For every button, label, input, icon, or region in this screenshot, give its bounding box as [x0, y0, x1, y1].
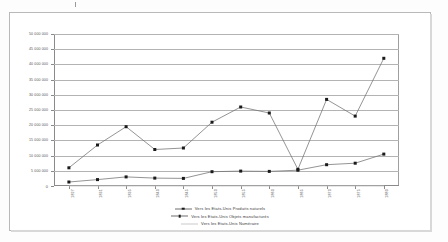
y-tick-label: 25 000 000 — [29, 108, 48, 112]
data-point-marker — [325, 163, 328, 166]
series-line — [69, 58, 384, 169]
data-point-marker — [211, 170, 214, 173]
x-tick-mark — [298, 186, 299, 189]
legend-marker-icon — [181, 221, 198, 226]
x-tick-mark — [69, 186, 70, 189]
series-lines — [54, 34, 399, 186]
chart-frame: 50 000 00045 000 00040 000 00035 000 000… — [9, 12, 431, 231]
legend-item-2[interactable]: Vers les Etats-Unis Objets manufacturés — [171, 214, 269, 219]
data-point-marker — [354, 162, 357, 165]
x-tick-label: 1870 — [328, 189, 332, 198]
y-tick-label: 0 — [46, 184, 48, 189]
x-tick-mark — [126, 186, 127, 189]
legend-label: Vers les Etats-Unis Objets manufacturés — [191, 214, 269, 219]
x-tick-label: 1855 — [242, 189, 246, 198]
y-tick-label: 15 000 000 — [29, 138, 48, 142]
data-point-marker — [239, 170, 242, 173]
data-point-marker — [296, 169, 299, 172]
data-point-marker — [268, 170, 271, 173]
y-tick-label: 20 000 000 — [29, 123, 48, 127]
page-top-mark — [75, 2, 76, 7]
data-point-marker — [268, 112, 271, 115]
x-tick-label: 1835 — [128, 189, 132, 198]
data-point-marker — [67, 181, 70, 184]
x-tick-label: 1845 — [185, 189, 189, 198]
y-tick-label: 45 000 000 — [29, 47, 48, 51]
chart-page: 50 000 00045 000 00040 000 00035 000 000… — [0, 0, 448, 242]
y-tick-label: 50 000 000 — [29, 32, 48, 36]
legend-marker-icon — [171, 214, 188, 219]
y-tick-label: 40 000 000 — [29, 62, 48, 66]
data-point-marker — [382, 153, 385, 156]
legend-item-1[interactable]: Vers les Etats-Unis Produits naturels — [175, 206, 265, 211]
data-point-marker — [211, 121, 214, 124]
data-point-marker — [182, 147, 185, 150]
data-point-marker — [125, 125, 128, 128]
data-point-marker — [239, 106, 242, 109]
x-tick-label: 1860 — [271, 189, 275, 198]
x-tick-label: 1831 — [99, 189, 103, 198]
data-point-marker — [125, 175, 128, 178]
y-tick-mark — [51, 186, 54, 187]
data-point-marker — [354, 115, 357, 118]
x-tick-mark — [212, 186, 213, 189]
x-tick-label: 1880 — [385, 189, 389, 198]
data-point-marker — [67, 166, 70, 169]
y-tick-label: 10 000 000 — [29, 154, 48, 158]
series-line — [69, 154, 384, 182]
series-2 — [67, 153, 385, 184]
legend-marker-icon — [175, 206, 192, 211]
y-tick-label: 30 000 000 — [29, 93, 48, 97]
data-point-marker — [325, 98, 328, 101]
x-tick-label: 1865 — [300, 189, 304, 198]
x-tick-label: 1840 — [156, 189, 160, 198]
legend-label: Vers les Etats-Unis Numéraire — [201, 221, 259, 226]
data-point-marker — [153, 177, 156, 180]
chart-legend: Vers les Etats-Unis Produits naturelsVer… — [10, 206, 430, 226]
data-point-marker — [96, 178, 99, 181]
x-tick-label: 1850 — [214, 189, 218, 198]
x-tick-label: 1875 — [357, 189, 361, 198]
data-point-marker — [182, 177, 185, 180]
legend-label: Vers les Etats-Unis Produits naturels — [195, 206, 265, 211]
data-point-marker — [153, 148, 156, 151]
plot-area: 50 000 00045 000 00040 000 00035 000 000… — [54, 34, 399, 186]
data-point-marker — [96, 144, 99, 147]
series-1 — [67, 57, 385, 171]
y-tick-label: 35 000 000 — [29, 78, 48, 82]
y-tick-label: 5 000 000 — [31, 169, 48, 173]
x-tick-label: 1827 — [71, 189, 75, 198]
legend-item-3[interactable]: Vers les Etats-Unis Numéraire — [181, 221, 259, 226]
data-point-marker — [382, 57, 385, 60]
